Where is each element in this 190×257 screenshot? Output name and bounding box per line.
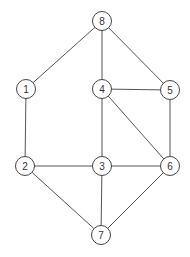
graph-diagram: 12345678	[0, 0, 190, 257]
node-label: 5	[167, 85, 173, 96]
edge-4-6	[102, 89, 170, 166]
node-label: 3	[99, 161, 105, 172]
node-label: 8	[99, 16, 105, 27]
node-5: 5	[161, 81, 180, 100]
edge-4-5	[102, 89, 170, 90]
node-8: 8	[93, 12, 112, 31]
edge-3-7	[101, 166, 102, 235]
node-4: 4	[93, 80, 112, 99]
edge-8-5	[102, 21, 170, 90]
node-label: 7	[98, 230, 104, 241]
node-layer: 12345678	[16, 12, 180, 245]
node-3: 3	[93, 157, 112, 176]
node-label: 2	[22, 161, 28, 172]
edge-6-7	[101, 166, 170, 235]
node-7: 7	[92, 226, 111, 245]
edge-2-7	[25, 166, 101, 235]
edge-1-2	[25, 89, 26, 166]
node-2: 2	[16, 157, 35, 176]
node-6: 6	[161, 157, 180, 176]
edge-8-1	[26, 21, 102, 89]
node-label: 1	[23, 84, 29, 95]
node-1: 1	[17, 80, 36, 99]
edge-layer	[25, 21, 170, 235]
node-label: 6	[167, 161, 173, 172]
node-label: 4	[99, 84, 105, 95]
